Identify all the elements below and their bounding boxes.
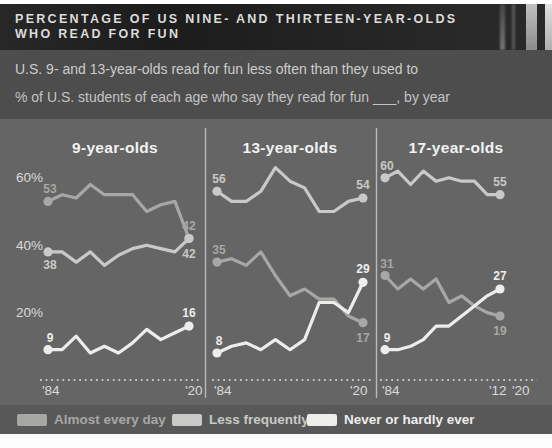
y-tick-label: 60% xyxy=(16,170,43,185)
data-point-dot xyxy=(212,258,221,267)
series-line-never-or-hardly-ever xyxy=(217,282,363,353)
panel-13-year-olds: 13-year-olds'84'2056543517829 xyxy=(212,139,371,398)
data-point-dot xyxy=(184,322,193,331)
series-line-never-or-hardly-ever xyxy=(48,326,189,353)
data-point-dot xyxy=(358,318,367,327)
x-tick-label: '84 xyxy=(382,383,400,398)
y-tick-label: 20% xyxy=(16,305,43,320)
value-label: 29 xyxy=(356,262,370,276)
x-tick-label: '84 xyxy=(42,383,60,398)
series-line-less-frequently xyxy=(217,168,363,212)
x-tick-label: '12 xyxy=(489,383,507,398)
data-point-dot xyxy=(43,197,52,206)
value-label: 54 xyxy=(356,178,370,192)
data-point-dot xyxy=(495,190,504,199)
data-point-dot xyxy=(358,193,367,202)
panel-17-year-olds: 17-year-olds'84'12'2060553119927 xyxy=(380,139,537,398)
data-point-dot xyxy=(43,345,52,354)
series-line-almost-every-day xyxy=(217,252,363,323)
series-line-almost-every-day xyxy=(385,276,500,317)
value-label: 17 xyxy=(356,331,370,345)
panel-9-year-olds: 9-year-olds'84'2053423842916 xyxy=(40,139,203,398)
data-point-dot xyxy=(380,173,389,182)
reading-trends-line-chart: 60%40%20%9-year-olds'84'205342384291613-… xyxy=(0,0,552,448)
series-line-almost-every-day xyxy=(48,185,189,239)
data-point-dot xyxy=(43,247,52,256)
value-label: 19 xyxy=(493,324,507,338)
data-point-dot xyxy=(212,348,221,357)
value-label: 56 xyxy=(212,172,226,186)
value-label: 27 xyxy=(493,269,507,283)
x-tick-label: '20 xyxy=(350,383,368,398)
value-label: 53 xyxy=(43,182,57,196)
data-point-dot xyxy=(495,284,504,293)
panel-title: 9-year-olds xyxy=(72,139,158,156)
infographic-page: PERCENTAGE OF US NINE- AND THIRTEEN-YEAR… xyxy=(0,0,552,448)
value-label: 16 xyxy=(182,306,196,320)
series-line-less-frequently xyxy=(385,171,500,195)
x-tick-label: '20 xyxy=(185,383,203,398)
panel-title: 13-year-olds xyxy=(243,139,338,156)
series-line-never-or-hardly-ever xyxy=(385,289,500,350)
x-tick-label: '20 xyxy=(512,383,530,398)
y-tick-label: 40% xyxy=(16,238,43,253)
data-point-dot xyxy=(495,311,504,320)
value-label: 42 xyxy=(182,247,196,261)
value-label: 31 xyxy=(380,257,394,271)
value-label: 9 xyxy=(384,331,391,345)
panel-title: 17-year-olds xyxy=(409,139,504,156)
x-tick-label: '84 xyxy=(214,383,232,398)
value-label: 55 xyxy=(493,175,507,189)
data-point-dot xyxy=(184,234,193,243)
data-point-dot xyxy=(380,345,389,354)
value-label: 42 xyxy=(182,219,196,233)
value-label: 38 xyxy=(43,258,57,272)
series-line-less-frequently xyxy=(48,239,189,266)
data-point-dot xyxy=(358,278,367,287)
value-label: 35 xyxy=(212,243,226,257)
data-point-dot xyxy=(380,271,389,280)
value-label: 60 xyxy=(380,159,394,173)
value-label: 9 xyxy=(47,331,54,345)
data-point-dot xyxy=(212,187,221,196)
value-label: 8 xyxy=(216,334,223,348)
